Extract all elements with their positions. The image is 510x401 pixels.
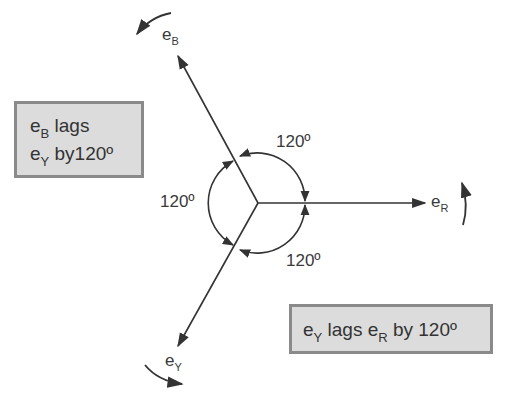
phasor-eY — [178, 203, 258, 346]
label-eR: eR — [431, 193, 448, 214]
label-eY: eY — [165, 352, 182, 373]
angle-arc-bottom — [240, 205, 305, 253]
note-eB-lags-eY: eB lags eY by120º — [14, 101, 144, 178]
note-eY-lags-eR: eY lags eR by 120º — [289, 304, 493, 354]
angle-label-bottom: 120º — [286, 252, 321, 269]
angle-arc-top — [240, 153, 305, 201]
rotation-arrow-eR — [462, 183, 466, 225]
note-line-1: eB lags — [30, 114, 141, 142]
phasor-eB — [178, 56, 258, 203]
angle-arc-left — [208, 161, 233, 245]
note-line-2: eY by120º — [30, 142, 141, 170]
angle-label-left: 120º — [160, 193, 195, 210]
label-eB: eB — [162, 26, 179, 47]
angle-label-top: 120º — [276, 133, 311, 150]
